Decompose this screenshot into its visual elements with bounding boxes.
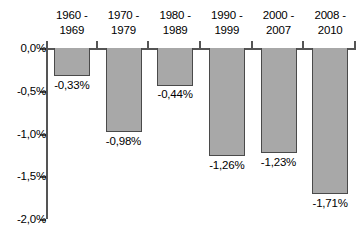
category-label: 1970 - 1979 [98,8,150,37]
category-label-line2: 2007 [253,23,305,38]
category-label-line1: 1980 - [159,9,190,21]
bar-slot: -1,23% [253,48,305,219]
x-tick-mark [354,41,356,48]
bar[interactable] [312,48,348,194]
category-label-line2: 1999 [201,23,253,38]
bar[interactable] [209,48,245,156]
category-label: 1960 - 1969 [46,8,98,37]
bar-slot: -0,33% [46,48,98,219]
category-label-line1: 2008 - [314,9,345,21]
category-label-line2: 2010 [304,23,356,38]
category-label: 2000 - 2007 [253,8,305,37]
x-tick-mark [251,41,253,48]
x-tick-mark [46,41,48,48]
y-tick-label: 0,0% [8,43,46,55]
bar-value-label: -0,98% [98,135,150,147]
bar-slot: -1,71% [304,48,356,219]
bar[interactable] [261,48,297,153]
category-label-line2: 1969 [46,23,98,38]
y-tick-label: -2,0% [8,214,46,226]
bar[interactable] [157,48,193,86]
bar-slot: -1,26% [201,48,253,219]
category-label-line1: 1990 - [211,9,242,21]
bar-slot: -0,98% [98,48,150,219]
bar-chart: 1960 - 1969 1970 - 1979 1980 - 1989 1990… [0,0,363,234]
bar[interactable] [106,48,142,132]
category-label-line2: 1989 [149,23,201,38]
category-label-line1: 1960 - [56,9,87,21]
bar-value-label: -0,33% [46,79,98,91]
category-label-line2: 1979 [98,23,150,38]
category-label-line1: 2000 - [263,9,294,21]
category-label: 2008 - 2010 [304,8,356,37]
category-label: 1990 - 1999 [201,8,253,37]
plot-area: -0,33% -0,98% -0,44% -1,26% -1,23% [46,48,356,219]
y-tick-label: -1,5% [8,171,46,183]
x-tick-mark [96,41,98,48]
category-label-line1: 1970 - [108,9,139,21]
y-tick-label: -1,0% [8,129,46,141]
x-tick-mark [302,41,304,48]
bar[interactable] [54,48,90,76]
bar-value-label: -0,44% [149,88,201,100]
x-tick-mark [147,41,149,48]
bar-value-label: -1,26% [201,159,253,171]
bar-value-label: -1,71% [304,197,356,209]
category-label: 1980 - 1989 [149,8,201,37]
bar-value-label: -1,23% [253,156,305,168]
x-tick-mark [199,41,201,48]
bar-slot: -0,44% [149,48,201,219]
category-label-row: 1960 - 1969 1970 - 1979 1980 - 1989 1990… [46,8,356,46]
y-tick-label: -0,5% [8,86,46,98]
